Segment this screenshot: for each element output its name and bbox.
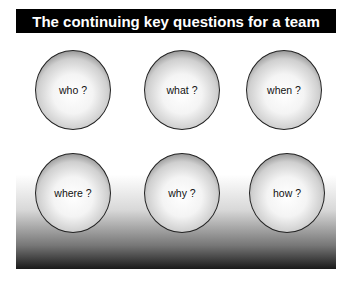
question-label: why ? <box>168 187 195 199</box>
question-label: where ? <box>54 187 91 199</box>
title-bar: The continuing key questions for a team <box>16 9 336 33</box>
question-label: how ? <box>273 187 301 199</box>
question-label: what ? <box>167 84 198 96</box>
question-sphere-how: how ? <box>249 153 325 233</box>
question-sphere-where: where ? <box>35 153 111 233</box>
question-sphere-why: why ? <box>144 153 220 233</box>
question-label: who ? <box>59 84 87 96</box>
diagram-title: The continuing key questions for a team <box>32 13 320 30</box>
question-sphere-when: when ? <box>246 50 322 130</box>
question-sphere-what: what ? <box>144 50 220 130</box>
question-label: when ? <box>267 84 301 96</box>
question-sphere-who: who ? <box>35 50 111 130</box>
